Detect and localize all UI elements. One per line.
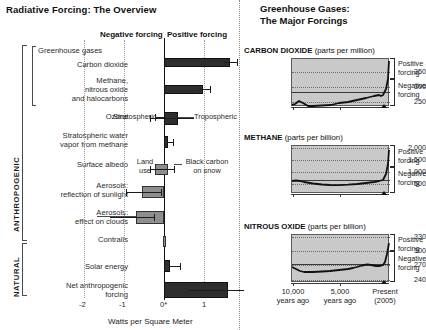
errorbar-cap-aerosols-reflection-right	[161, 189, 162, 196]
mini-xtick-ch4-10000	[293, 194, 294, 197]
errorbar-aerosols-clouds	[110, 217, 155, 218]
negative-bracket-n2o	[390, 251, 395, 282]
mini-xtick-n2o-10000	[293, 283, 294, 286]
mini-series-ch4	[292, 146, 390, 194]
callout-cap-stratospheric	[155, 114, 156, 121]
positive-bracket-ch4	[390, 145, 395, 167]
mini-unit-nitrous-oxide: (parts per billion)	[308, 222, 366, 231]
errorbar-cap-stratospheric-water-vapor	[173, 139, 174, 146]
x-axis-title: Watts per Square Meter	[108, 317, 193, 326]
positive-forcing-label-ch4: Positive forcing	[398, 148, 423, 165]
bar-carbon-dioxide	[164, 58, 230, 67]
callout-line-stratospheric	[155, 117, 164, 118]
callout-line-black-carbon	[174, 164, 182, 165]
errorbar-cap-carbon-dioxide	[237, 59, 238, 66]
overview-bar-chart: Negative forcing Positive forcing ANTHRO…	[0, 0, 239, 330]
positive-bracket-co2	[390, 58, 395, 79]
xtick-neg2: -2	[79, 300, 86, 309]
mini-series-co2	[292, 59, 390, 107]
xtick-zero: 0*	[160, 300, 167, 309]
callout-line-land-use	[157, 164, 164, 165]
callout-stratospheric: Stratospheric	[113, 113, 157, 122]
positive-forcing-label-co2: Positive forcing	[398, 60, 423, 77]
errorbar-cap-solar-energy	[180, 263, 181, 270]
mini-xtick-ch4-5000	[340, 194, 341, 197]
mini-chart-methane: METHANE (parts per billion) 2,000 1,500 …	[244, 133, 426, 205]
figure-root: Radiative Forcing: The Overview Greenhou…	[0, 0, 426, 330]
callout-land-use: Land use	[133, 158, 157, 176]
mini-xtick-co2-5000	[340, 107, 341, 110]
errorbar-carbon-dioxide	[224, 62, 238, 63]
mini-plot-nitrous-oxide	[291, 234, 389, 282]
errorbar-cap-surface-albedo-right	[174, 166, 175, 173]
mini-chart-carbon-dioxide: CARBON DIOXIDE (parts per million) 350 3…	[244, 46, 426, 118]
negative-bracket-ch4	[390, 167, 395, 193]
panel-divider	[239, 0, 240, 330]
mini-title-methane: METHANE (parts per billion)	[244, 133, 426, 142]
mini-series-n2o	[292, 235, 390, 283]
xtick-pos1: 1	[202, 300, 206, 309]
mini-xtick-co2-10000	[293, 107, 294, 110]
mini-title-text-carbon-dioxide: CARBON DIOXIDE	[244, 46, 312, 55]
positive-forcing-label-n2o: Positive forcing	[398, 236, 423, 253]
callout-tropospheric: Tropospheric	[194, 113, 237, 122]
positive-forcing-header: Positive forcing	[167, 30, 227, 39]
mini-present-marker-n2o	[381, 280, 387, 284]
errorbar-aerosols-reflection	[126, 192, 162, 193]
errorbar-net-anthropogenic-forcing	[188, 290, 244, 291]
mini-chart-nitrous-oxide: NITROUS OXIDE (parts per billion) 330 30…	[244, 222, 426, 317]
callout-line-aerosols-clouds	[97, 216, 136, 217]
callout-black-carbon: Black carbon on snow	[180, 158, 234, 176]
gridline-neg1	[124, 40, 125, 298]
mini-unit-carbon-dioxide: (parts per million)	[315, 46, 375, 55]
right-panel-title: Greenhouse Gases: The Major Forcings	[260, 3, 426, 26]
negative-bracket-co2	[390, 79, 395, 106]
callout-line-tropospheric	[178, 117, 194, 118]
mini-title-nitrous-oxide: NITROUS OXIDE (parts per billion)	[244, 222, 426, 231]
mini-plot-carbon-dioxide	[291, 58, 389, 106]
errorbar-cap-aerosols-clouds-right	[154, 214, 155, 221]
mini-title-text-nitrous-oxide: NITROUS OXIDE	[244, 222, 306, 231]
mini-present-marker-co2	[381, 104, 387, 108]
mini-xlabel-present: Present (2005)	[358, 288, 412, 305]
errorbar-cap-aerosols-reflection-left	[126, 189, 127, 196]
negative-forcing-header: Negative forcing	[100, 30, 163, 39]
negative-forcing-label-co2: Negative forcing	[398, 82, 426, 99]
mini-xlabel-10000-years-ago: 10,000 years ago	[266, 288, 320, 305]
bar-methane-group	[164, 85, 203, 94]
gridline-neg2	[84, 40, 85, 298]
mini-plot-methane	[291, 145, 389, 193]
xtick-neg1: -1	[119, 300, 126, 309]
bar-contrails	[163, 236, 166, 247]
positive-bracket-n2o	[390, 234, 395, 251]
mini-xtick-n2o-5000	[340, 283, 341, 286]
mini-unit-methane: (parts per billion)	[285, 133, 343, 142]
mini-title-text-methane: METHANE	[244, 133, 283, 142]
negative-forcing-label-ch4: Negative forcing	[398, 170, 426, 187]
errorbar-cap-methane-group	[210, 86, 211, 93]
mini-title-carbon-dioxide: CARBON DIOXIDE (parts per million)	[244, 46, 426, 55]
mini-present-marker-ch4	[381, 191, 387, 195]
negative-forcing-label-n2o: Negative forcing	[398, 255, 426, 272]
